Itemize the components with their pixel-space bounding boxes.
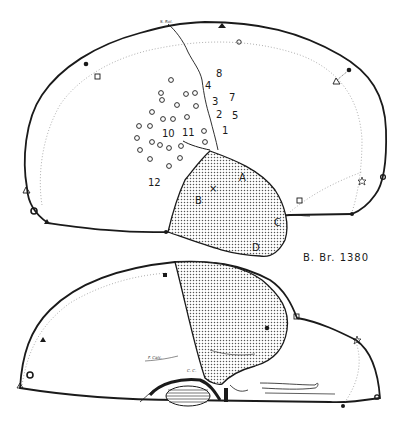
medial-hemisphere-view: F. Calc. C. C. — [17, 262, 380, 408]
sulcus-rolandi-label: S. Rol. — [160, 19, 173, 24]
landmark-dot-bottom-right — [350, 212, 354, 216]
brain-lesion-diagram: S. Rol. A B C D × 8 4 7 3 2 5 1 10 11 12 — [0, 0, 401, 425]
callosal-label: C. C. — [187, 368, 196, 373]
lesion-area-lateral — [168, 151, 287, 256]
fornix-band — [224, 388, 228, 402]
calcarine-fissure — [260, 383, 318, 389]
landmark-dot-lesion — [164, 230, 168, 234]
landmark-triangle-open — [333, 78, 340, 84]
stimulation-points — [135, 40, 242, 169]
specimen-label: B. Br. 1380 — [303, 252, 369, 263]
point-number-1: 1 — [222, 125, 228, 136]
medial-dotted-boundary — [22, 273, 168, 385]
medial-landmark-square — [163, 273, 167, 277]
landmark-square-open — [95, 74, 100, 79]
medial-landmark-triangle — [40, 337, 46, 342]
lesion-letter-a: A — [239, 172, 246, 183]
lateral-fissure — [183, 141, 210, 150]
lesion-dot-medial — [265, 326, 270, 331]
point-number-7: 7 — [229, 92, 235, 103]
point-number-12: 12 — [148, 177, 161, 188]
landmark-dot — [84, 62, 89, 67]
lesion-letter-b: B — [195, 195, 202, 206]
point-number-8: 8 — [216, 68, 222, 79]
point-number-2: 2 — [216, 109, 222, 120]
cross-marker: × — [209, 183, 217, 194]
point-number-10: 10 — [162, 128, 175, 139]
lateral-dotted-lower — [290, 172, 362, 212]
lateral-hemisphere-view: S. Rol. A B C D × 8 4 7 3 2 5 1 10 11 12 — [23, 19, 386, 256]
medial-dotted-occipital — [345, 342, 359, 402]
medial-landmark-dot — [341, 404, 345, 408]
landmark-square-lesion — [297, 198, 302, 203]
lesion-letter-d: D — [252, 242, 260, 253]
point-number-3: 3 — [212, 96, 218, 107]
point-number-4: 4 — [205, 80, 211, 91]
landmark-triangle-filled — [218, 23, 226, 28]
lesion-letter-c: C — [274, 217, 281, 228]
medial-landmark-ring — [27, 372, 33, 378]
point-number-5: 5 — [232, 110, 238, 121]
point-number-11: 11 — [182, 127, 195, 138]
